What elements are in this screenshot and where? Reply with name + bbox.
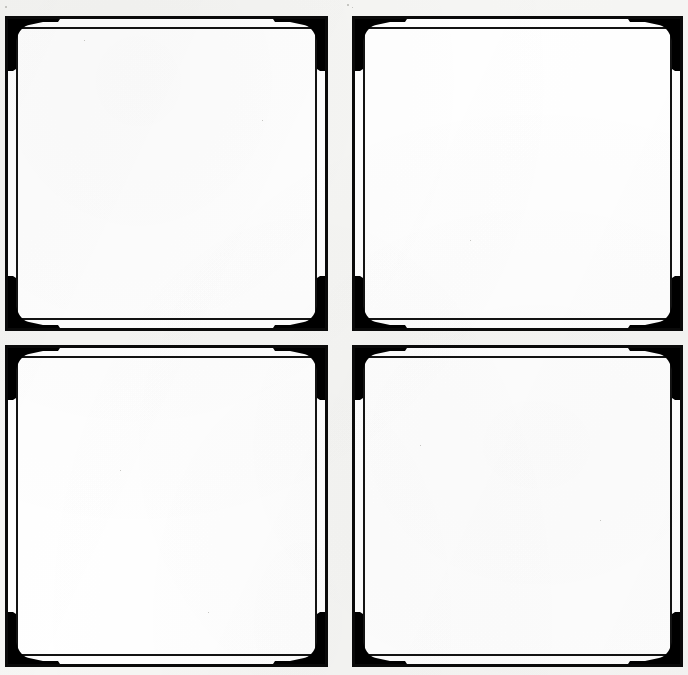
frame-grid — [0, 0, 688, 675]
frame-artwork — [5, 345, 328, 667]
frame-artwork — [5, 16, 328, 331]
scanned-sheet — [0, 0, 688, 675]
frame-panel-top-left[interactable] — [5, 16, 328, 331]
frame-panel-top-right[interactable] — [352, 16, 683, 331]
frame-interior — [5, 16, 328, 331]
frame-panel-bottom-right[interactable] — [352, 345, 683, 667]
frame-interior — [352, 345, 683, 667]
frame-artwork — [352, 16, 683, 331]
frame-interior — [5, 345, 328, 667]
frame-panel-bottom-left[interactable] — [5, 345, 328, 667]
frame-interior — [352, 16, 683, 331]
frame-artwork — [352, 345, 683, 667]
